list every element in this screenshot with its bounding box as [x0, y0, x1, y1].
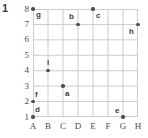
x-axis-tick-label: G: [116, 122, 130, 131]
x-axis-tick-label: B: [41, 122, 55, 131]
y-axis-tick-label: 2: [15, 97, 29, 106]
y-axis-tick-label: 5: [15, 51, 29, 60]
x-axis-tick-label: F: [101, 122, 115, 131]
data-point-label: b: [69, 13, 74, 21]
problem-number: 1: [2, 3, 8, 14]
data-point-label: e: [115, 107, 119, 115]
data-point-label: c: [96, 12, 100, 20]
x-axis-tick-label: H: [131, 122, 145, 131]
data-point[interactable]: [136, 23, 139, 26]
data-point-label: a: [65, 90, 69, 98]
x-axis-tick-label: D: [71, 122, 85, 131]
data-point-label: d: [35, 106, 40, 114]
y-axis-tick-label: 4: [15, 66, 29, 75]
data-point[interactable]: [91, 7, 94, 10]
data-point-label: g: [36, 11, 41, 19]
y-axis-tick-label: 1: [15, 113, 29, 122]
data-point[interactable]: [61, 84, 64, 87]
data-point-label: i: [47, 59, 49, 67]
data-point-label: h: [129, 28, 134, 36]
data-point[interactable]: [76, 23, 79, 26]
y-axis-tick-label: 6: [15, 35, 29, 44]
data-point[interactable]: [31, 115, 34, 118]
coordinate-grid-figure: 1 12345678 ABCDEFGH gbchiafde: [0, 0, 148, 138]
data-point[interactable]: [31, 100, 34, 103]
plot-area: gbchiafde: [33, 9, 138, 117]
x-axis-tick-label: A: [26, 122, 40, 131]
data-point[interactable]: [31, 7, 34, 10]
y-axis-tick-label: 8: [15, 5, 29, 14]
y-axis-tick-label: 3: [15, 82, 29, 91]
x-axis-tick-label: E: [86, 122, 100, 131]
x-axis-tick-label: C: [56, 122, 70, 131]
data-point-label: f: [35, 91, 38, 99]
y-axis-tick-label: 7: [15, 20, 29, 29]
data-point[interactable]: [121, 115, 124, 118]
